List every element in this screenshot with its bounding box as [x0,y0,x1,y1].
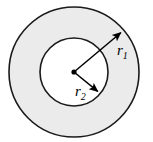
outer-radius-subscript: 1 [123,50,128,61]
inner-radius-subscript: 2 [81,91,86,102]
annulus-svg [0,0,153,142]
annulus-diagram: r1 r2 [0,0,153,142]
inner-radius-label: r2 [75,83,86,102]
outer-radius-label: r1 [117,42,128,61]
center-dot [71,69,76,74]
